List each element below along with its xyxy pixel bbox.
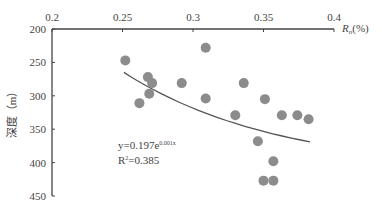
- data-point: [201, 43, 211, 53]
- data-point: [144, 89, 154, 99]
- y-tick-label: 400: [30, 157, 47, 169]
- data-point: [230, 110, 240, 120]
- data-point: [260, 94, 270, 104]
- data-point: [177, 78, 187, 88]
- y-axis-label: 深度（m）: [5, 86, 18, 139]
- data-point: [239, 78, 249, 88]
- data-point: [292, 110, 302, 120]
- y-tick-label: 350: [30, 123, 47, 135]
- data-point: [304, 114, 314, 124]
- data-point: [120, 55, 130, 65]
- equation-label: y=0.197e0.001x: [118, 139, 176, 151]
- x-axis-label: Ro(%): [341, 22, 369, 36]
- y-tick-label: 250: [30, 56, 47, 68]
- data-point: [201, 93, 211, 103]
- data-point: [259, 176, 269, 186]
- y-tick-label: 300: [30, 90, 47, 102]
- x-tick-label: 0.3: [186, 11, 200, 23]
- data-point: [134, 98, 144, 108]
- scatter-plot: 0.20.250.30.350.4200250300350400450Ro(%)…: [0, 0, 382, 210]
- chart: 0.20.250.30.350.4200250300350400450Ro(%)…: [0, 0, 382, 210]
- data-point: [268, 176, 278, 186]
- data-point: [277, 110, 287, 120]
- data-point: [147, 78, 157, 88]
- data-point: [268, 156, 278, 166]
- x-tick-label: 0.25: [113, 11, 133, 23]
- x-tick-label: 0.4: [327, 11, 341, 23]
- data-point: [253, 136, 263, 146]
- y-tick-label: 200: [30, 23, 47, 35]
- x-tick-label: 0.2: [45, 11, 59, 23]
- x-tick-label: 0.35: [254, 11, 274, 23]
- y-tick-label: 450: [30, 190, 47, 202]
- r-squared-label: R2=0.385: [118, 154, 160, 166]
